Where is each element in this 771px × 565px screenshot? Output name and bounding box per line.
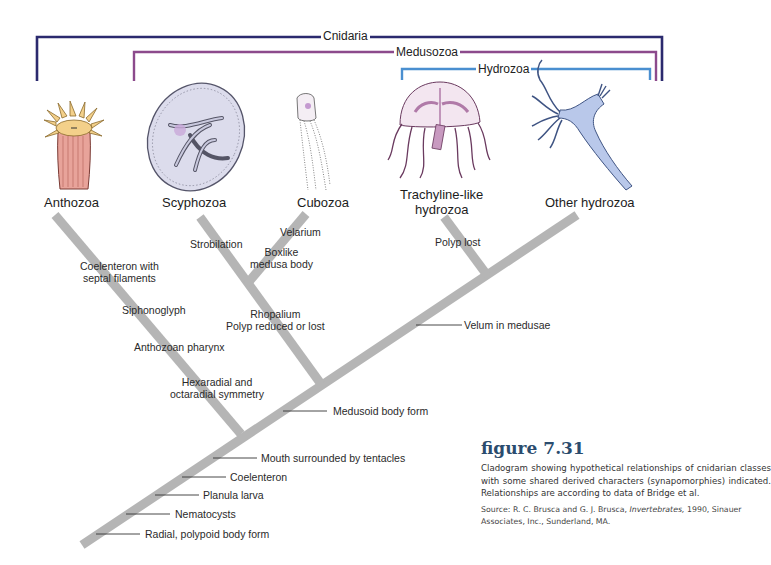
char-boxlike-medusa: Boxlike medusa body: [250, 246, 313, 270]
char-line: Hexaradial and: [170, 376, 264, 388]
char-nematocysts: Nematocysts: [175, 508, 236, 520]
char-hexaradial: Hexaradial and octaradial symmetry: [170, 376, 264, 400]
clade-label-cnidaria: Cnidaria: [321, 29, 370, 43]
cnidaria-bracket: [37, 37, 662, 81]
char-line: septal filaments: [80, 272, 159, 284]
char-line: Polyp reduced or lost: [226, 320, 325, 332]
char-planula: Planula larva: [203, 489, 264, 501]
box-jellyfish-illustration: [297, 94, 330, 191]
clade-label-medusozoa: Medusozoa: [394, 45, 460, 59]
char-polyp-lost: Polyp lost: [435, 236, 481, 248]
figure-caption-text: Cladogram showing hypothetical relations…: [481, 462, 771, 500]
char-line: medusa body: [250, 258, 313, 270]
taxon-label-other-hydrozoa: Other hydrozoa: [545, 195, 635, 210]
hydroid-polyp-illustration: [532, 60, 632, 190]
taxon-label-trachyline-line1: Trachyline-like: [400, 187, 483, 202]
char-velarium: Velarium: [280, 226, 321, 238]
hydromedusa-illustration: [388, 82, 490, 178]
char-rhopalium: Rhopalium Polyp reduced or lost: [226, 308, 325, 332]
char-coelenteron: Coelenteron: [230, 471, 287, 483]
char-medusoid: Medusoid body form: [333, 405, 428, 417]
char-coelenteron-septal: Coelenteron with septal filaments: [80, 260, 159, 284]
figure-source: Source: R. C. Brusca and G. J. Brusca, I…: [481, 504, 771, 528]
taxon-label-trachyline-line2: hydrozoa: [400, 202, 483, 217]
char-line: Coelenteron with: [80, 260, 159, 272]
sea-anemone-illustration: [44, 101, 104, 189]
char-velum: Velum in medusae: [464, 319, 550, 331]
source-book-title: Invertebrates,: [629, 505, 684, 514]
char-mouth-tentacles: Mouth surrounded by tentacles: [261, 452, 405, 464]
taxon-label-cubozoa: Cubozoa: [297, 195, 349, 210]
char-radial-polypoid: Radial, polypoid body form: [145, 528, 269, 540]
taxon-label-trachyline: Trachyline-like hydrozoa: [400, 187, 483, 217]
figure-caption: figure 7.31 Cladogram showing hypothetic…: [481, 438, 771, 528]
char-line: octaradial symmetry: [170, 388, 264, 400]
taxon-label-scyphozoa: Scyphozoa: [162, 195, 226, 210]
source-prefix: Source: R. C. Brusca and G. J. Brusca,: [481, 505, 629, 514]
clade-label-hydrozoa: Hydrozoa: [476, 62, 531, 76]
char-line: Boxlike: [250, 246, 313, 258]
char-anthozoan-pharynx: Anthozoan pharynx: [134, 341, 224, 353]
taxon-label-anthozoa: Anthozoa: [44, 195, 99, 210]
figure-title: figure 7.31: [481, 438, 771, 458]
char-siphonoglyph: Siphonoglyph: [122, 304, 186, 316]
cladogram-figure: Cnidaria Medusozoa Hydrozoa Anthozoa Scy…: [0, 0, 771, 565]
char-strobilation: Strobilation: [190, 238, 243, 250]
jellyfish-illustration: [130, 67, 262, 206]
char-line: Rhopalium: [226, 308, 325, 320]
